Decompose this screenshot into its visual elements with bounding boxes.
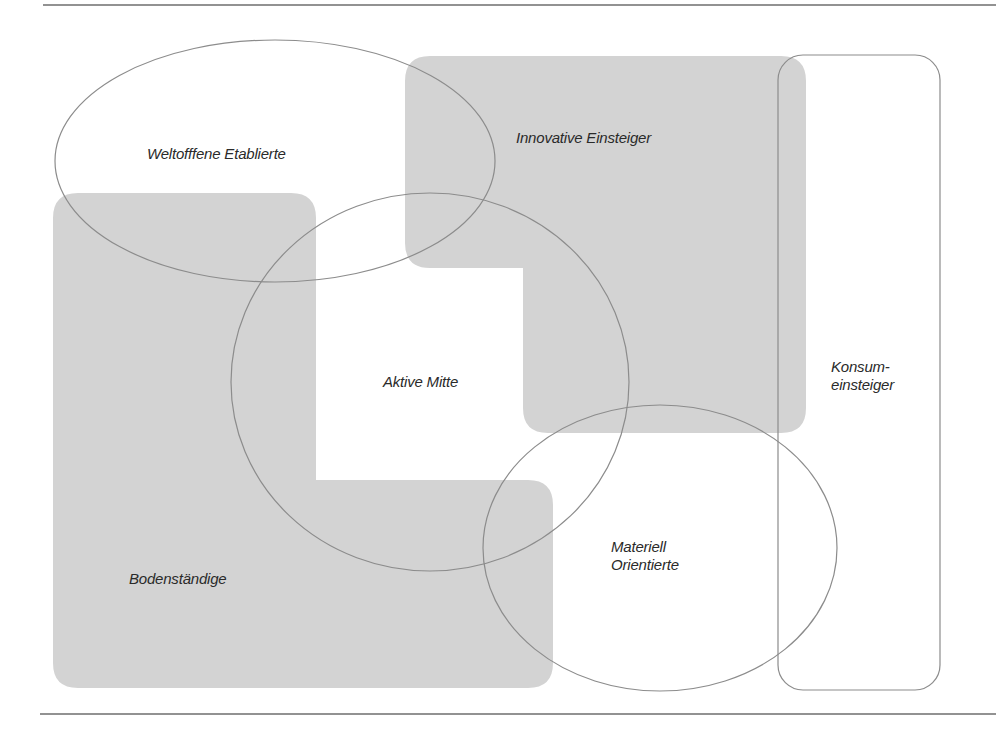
label-konsumeinsteiger: Konsum- einsteiger [831,358,894,394]
innovative-einsteiger-area [405,56,806,433]
label-innovative-einsteiger: Innovative Einsteiger [516,129,651,147]
label-konsum-line2: einsteiger [831,376,894,394]
label-aktive-mitte: Aktive Mitte [383,373,458,391]
label-materiell-line2: Orientierte [611,556,679,574]
label-konsum-line1: Konsum- [831,358,894,376]
label-materiell-orientierte: Materiell Orientierte [611,538,679,574]
label-bodenstaendige: Bodenständige [129,570,227,588]
label-weltoffene-etablierte: Weltofffene Etablierte [147,145,286,163]
label-materiell-line1: Materiell [611,538,679,556]
